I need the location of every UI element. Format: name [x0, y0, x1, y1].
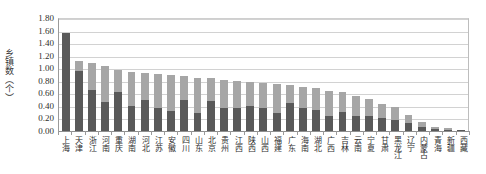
x-axis-category-label: 浙江 — [87, 136, 95, 151]
x-axis-tick — [297, 131, 298, 135]
stacked-bar[interactable] — [246, 82, 254, 131]
stacked-bar[interactable] — [391, 107, 399, 131]
stacked-bar[interactable] — [418, 122, 426, 131]
stacked-bar[interactable] — [378, 104, 386, 131]
bar-segment-top — [167, 75, 175, 111]
bar-series-group — [59, 19, 468, 131]
bar-segment-top — [299, 87, 307, 108]
stacked-bar[interactable] — [62, 33, 70, 131]
bar-segment-top — [101, 66, 109, 102]
bar-slot — [270, 19, 283, 131]
stacked-bar[interactable] — [325, 91, 333, 131]
x-axis-tick — [283, 131, 284, 135]
x-axis-category-labels: 上海天津浙江河南重庆湖南河北江苏安徽四川山东北京贵州江西陕西山西福建广东海南湖北… — [58, 136, 469, 174]
stacked-bar[interactable] — [154, 74, 162, 131]
stacked-bar[interactable] — [233, 81, 241, 131]
x-axis-tick — [403, 131, 404, 135]
bar-segment-top — [391, 107, 399, 121]
x-label-slot: 上海 — [58, 136, 71, 174]
stacked-bar[interactable] — [88, 63, 96, 131]
bar-segment-bottom — [312, 110, 320, 131]
x-label-slot: 甘肃 — [376, 136, 389, 174]
bar-segment-bottom — [101, 102, 109, 131]
bar-segment-bottom — [62, 33, 70, 131]
stacked-bar[interactable] — [167, 75, 175, 131]
stacked-bar[interactable] — [299, 87, 307, 131]
bar-segment-top — [325, 91, 333, 116]
bar-slot — [99, 19, 112, 131]
bar-segment-bottom — [141, 100, 149, 131]
x-axis-category-label: 湖北 — [313, 136, 321, 151]
x-axis-category-label: 山西 — [260, 136, 268, 151]
bar-segment-bottom — [154, 108, 162, 131]
stacked-bar[interactable] — [220, 80, 228, 131]
x-label-slot: 广西 — [323, 136, 336, 174]
x-axis-tick — [191, 131, 192, 135]
x-axis-category-label: 吉林 — [339, 136, 347, 151]
bar-segment-top — [128, 72, 136, 106]
x-label-slot: 安徽 — [164, 136, 177, 174]
stacked-bar[interactable] — [365, 99, 373, 131]
x-axis-tick — [363, 131, 364, 135]
x-axis-category-label: 宁夏 — [366, 136, 374, 151]
x-axis-category-label: 陕西 — [246, 136, 254, 151]
x-axis-tick — [270, 131, 271, 135]
stacked-bar[interactable] — [273, 84, 281, 131]
stacked-bar[interactable] — [339, 92, 347, 131]
bar-segment-top — [194, 78, 202, 113]
bar-slot — [151, 19, 164, 131]
bar-segment-top — [207, 78, 215, 101]
bar-segment-top — [352, 96, 360, 116]
x-label-slot: 河南 — [98, 136, 111, 174]
stacked-bar[interactable] — [405, 115, 413, 131]
bar-slot — [204, 19, 217, 131]
bar-segment-top — [141, 73, 149, 100]
bar-segment-bottom — [194, 113, 202, 131]
x-axis-tick — [111, 131, 112, 135]
bar-segment-bottom — [286, 103, 294, 131]
stacked-bar[interactable] — [128, 72, 136, 131]
bar-segment-bottom — [378, 118, 386, 131]
stacked-bar[interactable] — [352, 96, 360, 131]
y-axis-tick-label: 0.80 — [38, 76, 54, 85]
bar-segment-top — [405, 115, 413, 123]
x-axis-category-label: 安徽 — [167, 136, 175, 151]
stacked-bar[interactable] — [259, 83, 267, 131]
bar-segment-top — [259, 83, 267, 107]
stacked-bar[interactable] — [75, 61, 83, 131]
y-axis-tick-label: 1.40 — [38, 39, 54, 48]
bar-slot — [178, 19, 191, 131]
x-label-slot: 辽宁 — [403, 136, 416, 174]
x-label-slot: 陕西 — [244, 136, 257, 174]
stacked-bar[interactable] — [141, 73, 149, 131]
stacked-bar[interactable] — [194, 78, 202, 131]
x-axis-tick — [124, 131, 125, 135]
stacked-bar[interactable] — [207, 78, 215, 131]
y-axis-title: 乡镇数（个） — [2, 22, 16, 128]
stacked-bar[interactable] — [101, 66, 109, 131]
x-axis-tick — [164, 131, 165, 135]
x-label-slot: 吉林 — [337, 136, 350, 174]
bar-segment-bottom — [88, 90, 96, 131]
y-axis-tick-label: 0.60 — [38, 89, 54, 98]
x-axis-category-label: 福建 — [273, 136, 281, 151]
stacked-bar[interactable] — [312, 88, 320, 131]
x-label-slot: 云南 — [350, 136, 363, 174]
bar-slot — [257, 19, 270, 131]
stacked-bar[interactable] — [114, 70, 122, 131]
bar-segment-top — [246, 82, 254, 106]
stacked-bar[interactable] — [286, 85, 294, 131]
y-axis-tick-label: 0.00 — [38, 127, 54, 136]
x-axis-category-label: 江西 — [233, 136, 241, 151]
x-axis-tick — [389, 131, 390, 135]
stacked-bar[interactable] — [180, 76, 188, 131]
x-axis-category-label: 贵州 — [220, 136, 228, 151]
bar-slot — [296, 19, 309, 131]
y-axis-tick-label: 1.00 — [38, 64, 54, 73]
x-label-slot: 江西 — [230, 136, 243, 174]
bar-slot — [112, 19, 125, 131]
x-axis-tick — [151, 131, 152, 135]
bar-segment-top — [378, 104, 386, 118]
x-axis-category-label: 湖南 — [127, 136, 135, 151]
y-axis-tick-labels: 0.000.200.400.600.801.001.201.401.601.80 — [16, 13, 56, 135]
